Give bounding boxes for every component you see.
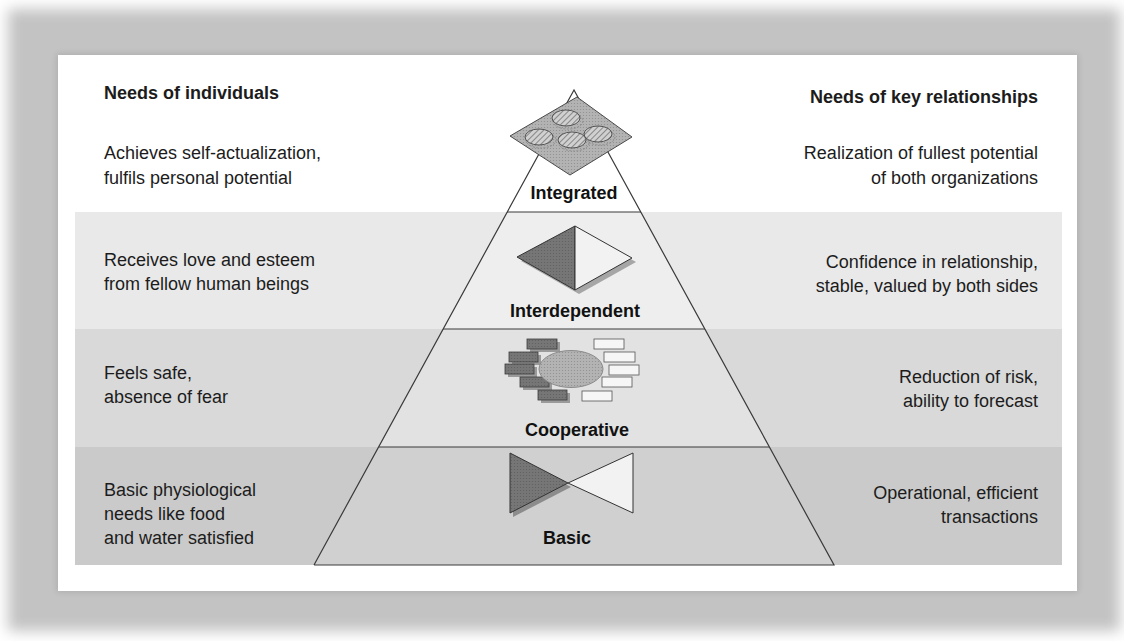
integrated-individual-need: Achieves self-actualization, fulfils per… <box>104 141 321 191</box>
basic-relationship-need: Operational, efficient transactions <box>873 481 1038 529</box>
level-label-cooperative: Cooperative <box>525 418 629 442</box>
text-line: transactions <box>873 505 1038 529</box>
text-line: and water satisfied <box>104 526 256 550</box>
text-line: ability to forecast <box>899 389 1038 413</box>
text-line: of both organizations <box>804 166 1038 191</box>
text-line: Receives love and esteem <box>104 248 315 272</box>
text-line: from fellow human beings <box>104 272 315 296</box>
interdependent-relationship-need: Confidence in relationship, stable, valu… <box>816 250 1038 298</box>
relationship-needs-header-text: Needs of key relationships <box>810 85 1038 109</box>
text-line: needs like food <box>104 502 256 526</box>
text-line: absence of fear <box>104 385 228 409</box>
interdependent-individual-need: Receives love and esteem from fellow hum… <box>104 248 315 296</box>
individual-needs-header-text: Needs of individuals <box>104 81 279 105</box>
text-line: stable, valued by both sides <box>816 274 1038 298</box>
text-line: Basic physiological <box>104 478 256 502</box>
level-label-interdependent: Interdependent <box>510 299 640 323</box>
text-line: Reduction of risk, <box>899 365 1038 389</box>
relationship-needs-header: Needs of key relationships <box>810 85 1038 109</box>
level-label-basic: Basic <box>543 526 591 550</box>
text-line: Operational, efficient <box>873 481 1038 505</box>
text-line: fulfils personal potential <box>104 166 321 191</box>
integrated-relationship-need: Realization of fullest potential of both… <box>804 141 1038 191</box>
level-label-integrated: Integrated <box>530 181 617 205</box>
individual-needs-header: Needs of individuals <box>104 81 279 105</box>
cooperative-individual-need: Feels safe, absence of fear <box>104 361 228 409</box>
text-line: Confidence in relationship, <box>816 250 1038 274</box>
text-line: Realization of fullest potential <box>804 141 1038 166</box>
text-line: Feels safe, <box>104 361 228 385</box>
text-line: Achieves self-actualization, <box>104 141 321 166</box>
basic-individual-need: Basic physiological needs like food and … <box>104 478 256 550</box>
cooperative-relationship-need: Reduction of risk, ability to forecast <box>899 365 1038 413</box>
